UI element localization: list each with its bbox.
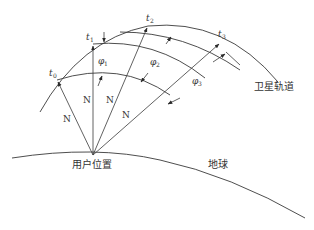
label-t2: t 2	[146, 13, 154, 24]
label-user-position: 用户位置	[72, 158, 112, 170]
phase-tick-t3	[226, 52, 240, 65]
label-n-2: N	[83, 95, 91, 105]
svg-text:0: 0	[53, 72, 57, 79]
satellite-orbit-diagram: t 0 t 1 t 2 t 3 φ 1 φ 2 φ 3 N N N	[0, 0, 314, 230]
label-satellite-orbit: 卫星轨道	[254, 80, 294, 92]
label-phi2: φ 2	[150, 57, 160, 68]
svg-text:1: 1	[104, 60, 108, 67]
svg-text:2: 2	[150, 17, 154, 24]
label-phi3: φ 3	[192, 76, 202, 87]
label-t3: t 3	[218, 29, 226, 40]
phase-arrow-phi1	[98, 76, 102, 86]
svg-text:3: 3	[198, 80, 202, 87]
satellite-orbit-curve	[40, 25, 278, 112]
diagram-svg: t 0 t 1 t 2 t 3 φ 1 φ 2 φ 3 N N N	[0, 0, 314, 230]
earth-surface-curve	[12, 152, 305, 218]
label-earth: 地球	[208, 158, 228, 170]
phase-arrow-phi3	[168, 98, 180, 104]
svg-text:2: 2	[156, 61, 160, 68]
svg-text:1: 1	[90, 36, 94, 43]
svg-text:3: 3	[222, 33, 226, 40]
range-ray-t2	[93, 28, 147, 155]
label-n-4: N	[122, 110, 130, 120]
label-phi1: φ 1	[98, 56, 108, 67]
label-t0: t 0	[49, 68, 57, 79]
label-n-3: N	[106, 95, 114, 105]
wavefront-arc-t0	[57, 73, 170, 95]
label-t1: t 1	[86, 32, 94, 43]
label-n-1: N	[63, 114, 71, 124]
